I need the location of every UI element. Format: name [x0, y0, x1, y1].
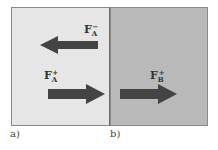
- arrow-right-icon: [48, 84, 105, 104]
- force-label-fb-plus: FB+: [150, 70, 165, 81]
- arrow-right-icon: [120, 84, 177, 104]
- caption-a: a): [10, 128, 20, 139]
- force-label-fa-plus: FA+: [44, 70, 58, 81]
- panel-b: [110, 7, 208, 126]
- caption-b: b): [110, 128, 120, 139]
- force-label-fa-minus: FA−: [84, 24, 98, 35]
- panel-divider: [109, 7, 110, 126]
- arrow-left-icon: [40, 36, 98, 54]
